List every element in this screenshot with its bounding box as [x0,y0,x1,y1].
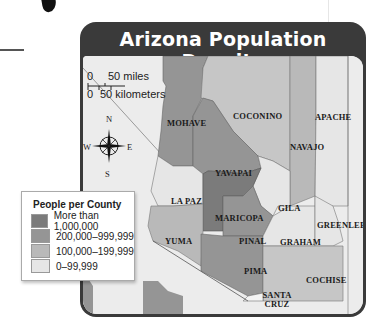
label-gila: GILA [278,203,301,213]
compass-rose-icon [89,123,129,169]
legend-label: 0–99,999 [56,261,98,272]
compass-e: E [127,142,132,152]
label-cochise: COCHISE [306,275,347,285]
legend-label: 200,000–999,999 [56,231,134,242]
legend-item: 0–99,999 [31,259,98,273]
county-apache [315,56,348,206]
legend-item: More than 1,000,000 [31,214,134,228]
label-navajo: NAVAJO [290,142,324,152]
legend-label: 100,000–199,999 [56,246,134,257]
legend-swatch [31,259,50,273]
scale-miles-label: 50 miles [108,70,149,82]
label-maricopa: MARICOPA [215,213,264,223]
label-santacruz: SANTA CRUZ [259,291,295,309]
scale-miles-zero: 0 [87,70,93,82]
legend: People per County More than 1,000,000 20… [21,191,135,281]
legend-swatch [31,214,48,228]
label-yuma: YUMA [165,236,192,246]
scale-km-label: 50 kilometers [100,88,165,100]
decorative-black-shape [41,0,58,13]
legend-swatch [31,244,50,258]
label-pima: PIMA [244,266,267,276]
legend-item: 100,000–199,999 [31,244,134,258]
compass-n: N [106,114,112,124]
compass-s: S [105,169,110,179]
legend-title: People per County [33,199,121,210]
label-coconino: COCONINO [233,111,282,121]
label-apache: APACHE [315,112,351,122]
label-pinal: PINAL [239,236,266,246]
label-greenlee: GREENLEE [317,220,363,230]
label-mohave: MOHAVE [167,118,206,128]
label-yavapai: YAVAPAI [215,168,252,178]
label-lapaz: LA PAZ [171,196,202,206]
scale-km-zero: 0 [87,88,93,100]
legend-item: 200,000–999,999 [31,229,134,243]
county-navajo [290,56,316,206]
divider-line [0,49,24,51]
compass-w: W [83,142,91,152]
label-graham: GRAHAM [280,237,321,247]
legend-swatch [31,229,50,243]
